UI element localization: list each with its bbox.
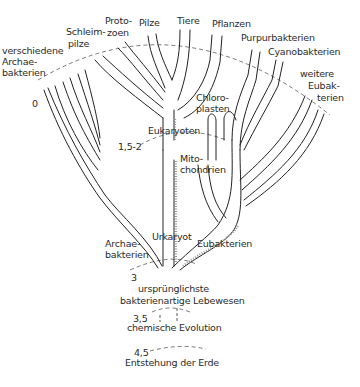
label-archae-various-1: verschiedene: [2, 45, 64, 56]
label-chloroplasten-2: plasten: [196, 103, 230, 114]
label-protozoen-1: Proto-: [105, 15, 132, 26]
archaebacteria-branch: [44, 70, 162, 268]
label-entstehung: Entstehung der Erde: [125, 357, 219, 368]
label-purpurbakterien: Purpurbakterien: [241, 32, 315, 43]
arc-4-5: [150, 346, 206, 351]
arc-3-5: [152, 308, 190, 312]
label-pflanzen: Pflanzen: [212, 18, 251, 29]
label-pilze: Pilze: [139, 17, 160, 28]
label-schleimpilze-1: Schleim-: [66, 26, 105, 37]
label-schleimpilze-2: pilze: [68, 38, 89, 49]
label-urspruenglichste-1: ursprünglichste: [138, 283, 209, 294]
label-archaebakterien-1: Archae-: [105, 238, 140, 249]
label-tiere: Tiere: [176, 15, 200, 26]
time-marker-0: 0: [32, 98, 38, 109]
tree-of-life-diagram: verschiedene Archae- bakterien Schleim- …: [0, 0, 360, 387]
label-mitochondrien-2: chondrien: [180, 164, 226, 175]
label-eukaryoten: Eukaryoten: [148, 125, 200, 136]
label-archae-various-3: bakterien: [2, 67, 46, 78]
label-cyanobakterien: Cyanobakterien: [268, 46, 341, 57]
label-weitere-3: terien: [317, 92, 344, 103]
time-marker-3: 3: [131, 272, 137, 283]
label-urspruenglichste-2: bakterienartige Lebewesen: [120, 295, 245, 306]
time-marker-1-5-2: 1,5-2: [118, 141, 142, 152]
label-weitere-2: Eubak-: [308, 80, 340, 91]
label-eubakterien: Eubakterien: [197, 238, 252, 249]
label-archaebakterien-2: bakterien: [105, 249, 149, 260]
label-archae-various-2: Archae-: [2, 56, 37, 67]
time-marker-3-5: 3,5: [133, 313, 148, 324]
label-mitochondrien-1: Mito-: [180, 153, 203, 164]
label-urkaryot: Urkaryot: [152, 231, 192, 242]
label-protozoen-2: zoen: [107, 27, 129, 38]
label-chloroplasten-1: Chloro-: [196, 92, 229, 103]
time-marker-4-5: 4,5: [134, 347, 149, 358]
label-weitere-1: weitere: [300, 68, 334, 79]
